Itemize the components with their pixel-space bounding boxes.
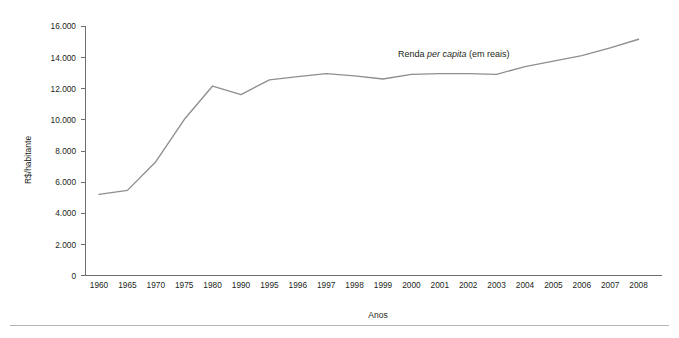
annotation-text-after: (em reais) <box>467 49 510 59</box>
x-tick-label: 1995 <box>260 280 279 290</box>
x-tick-label: 2004 <box>516 280 535 290</box>
x-tick-label: 1965 <box>118 280 137 290</box>
x-tick-label: 1997 <box>317 280 336 290</box>
x-tick-label: 2006 <box>573 280 592 290</box>
x-tick-label: 2005 <box>544 280 563 290</box>
y-tick-label: 4.000 <box>55 208 76 218</box>
x-tick-label: 2000 <box>402 280 421 290</box>
annotation-text-before: Renda <box>398 49 427 59</box>
x-tick-label: 2007 <box>601 280 620 290</box>
y-tick-label: 10.000 <box>51 115 77 125</box>
x-tick-label: 2008 <box>629 280 648 290</box>
y-axis-title: R$/habitante <box>23 136 33 184</box>
line-chart: 16.000 14.000 12.000 10.000 8.000 6.000 … <box>0 0 679 338</box>
x-tick-label: 1960 <box>90 280 109 290</box>
y-tick-label: 16.000 <box>51 21 77 31</box>
y-tick-label: 14.000 <box>51 53 77 63</box>
x-tick-label: 1970 <box>147 280 166 290</box>
x-tick-label: 1998 <box>345 280 364 290</box>
y-tick-label: 8.000 <box>55 146 76 156</box>
x-tick-label: 1996 <box>289 280 308 290</box>
x-tick-label: 1999 <box>374 280 393 290</box>
x-axis-title: Anos <box>368 310 387 320</box>
x-tick-label: 1990 <box>232 280 251 290</box>
x-tick-label: 1980 <box>203 280 222 290</box>
chart-figure: 16.000 14.000 12.000 10.000 8.000 6.000 … <box>0 0 679 338</box>
x-tick-label: 2003 <box>487 280 506 290</box>
y-tick-label: 6.000 <box>55 177 76 187</box>
y-tick-label: 2.000 <box>55 240 76 250</box>
x-tick-label: 1975 <box>175 280 194 290</box>
y-axis-tick-labels: 16.000 14.000 12.000 10.000 8.000 6.000 … <box>51 21 77 281</box>
x-tick-label: 2001 <box>431 280 450 290</box>
y-tick-label: 12.000 <box>51 84 77 94</box>
series-annotation-label: Renda per capita (em reais) <box>398 49 510 59</box>
y-tick-label: 0 <box>71 271 76 281</box>
x-tick-label: 2002 <box>459 280 478 290</box>
annotation-text-emphasis: per capita <box>426 49 467 59</box>
